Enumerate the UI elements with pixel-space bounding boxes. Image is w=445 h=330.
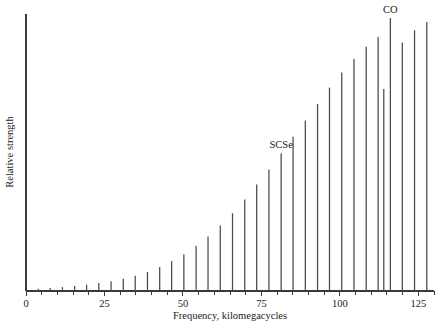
- spectrum-lines: [38, 18, 427, 291]
- x-axis-tick-labels: 0255075100125: [23, 298, 426, 309]
- x-axis-major-ticks: [26, 291, 418, 296]
- x-axis-tick-label: 25: [99, 298, 110, 309]
- chart-figure: 0255075100125 SCSeCO Frequency, kilomega…: [0, 0, 445, 330]
- x-axis-tick-label: 50: [178, 298, 189, 309]
- peak-label-co: CO: [383, 4, 398, 15]
- x-axis-tick-label: 75: [256, 298, 267, 309]
- y-axis-title-group: Relative strength: [4, 116, 15, 188]
- y-axis-title: Relative strength: [4, 116, 15, 188]
- x-axis-tick-label: 0: [23, 298, 28, 309]
- x-axis-tick-label: 125: [410, 298, 426, 309]
- stick-spectrum-chart: 0255075100125 SCSeCO Frequency, kilomega…: [0, 0, 445, 330]
- peak-label-scse: SCSe: [269, 139, 293, 150]
- x-axis-title: Frequency, kilomegacycles: [173, 310, 287, 321]
- peak-annotations: SCSeCO: [269, 4, 398, 150]
- x-axis-tick-label: 100: [332, 298, 348, 309]
- plot-axes: [26, 14, 434, 291]
